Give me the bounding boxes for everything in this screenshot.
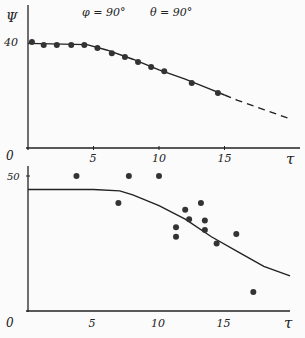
chart-canvas: Ψφ = 90°θ = 90°40051015τ50051015τ (0, 0, 305, 338)
data-point (182, 207, 188, 213)
x-label: τ (286, 150, 295, 168)
data-point (215, 90, 221, 96)
data-point (198, 200, 204, 206)
data-point (186, 216, 192, 222)
x-tick: 10 (151, 317, 165, 330)
data-point (126, 173, 132, 179)
data-point (73, 173, 79, 179)
data-point (202, 218, 208, 224)
y-tick: 50 (7, 171, 20, 182)
annotation-phi: φ = 90° (82, 6, 125, 19)
data-point (250, 289, 256, 295)
data-point (148, 64, 154, 70)
data-point (68, 42, 74, 48)
data-point (156, 173, 162, 179)
data-point (135, 59, 141, 65)
y-label: Ψ (6, 10, 18, 25)
data-point (173, 234, 179, 240)
data-point (29, 39, 35, 45)
theory-curve-extrapolated (225, 95, 291, 119)
data-point (94, 45, 100, 51)
x-tick: 5 (90, 152, 97, 165)
data-point (54, 42, 60, 48)
data-point (81, 42, 87, 48)
data-point (115, 200, 121, 206)
data-point (109, 50, 115, 56)
y-tick: 0 (6, 149, 14, 163)
data-point (173, 224, 179, 230)
x-tick: 0 (6, 316, 14, 330)
x-tick: 5 (89, 317, 96, 330)
data-point (214, 241, 220, 247)
data-point (189, 80, 195, 86)
data-point (233, 231, 239, 237)
y-tick: 40 (3, 36, 18, 49)
figure: Ψφ = 90°θ = 90°40051015τ50051015τ (0, 0, 305, 338)
data-point (122, 54, 128, 60)
x-tick: 10 (152, 152, 166, 165)
data-point (202, 227, 208, 233)
x-tick: 15 (217, 317, 231, 330)
annotation-theta: θ = 90° (150, 6, 192, 19)
data-point (41, 42, 47, 48)
data-point (161, 68, 167, 74)
theory-curve (28, 190, 290, 276)
theory-curve (28, 43, 225, 95)
x-label: τ (284, 314, 293, 332)
x-tick: 15 (218, 152, 232, 165)
